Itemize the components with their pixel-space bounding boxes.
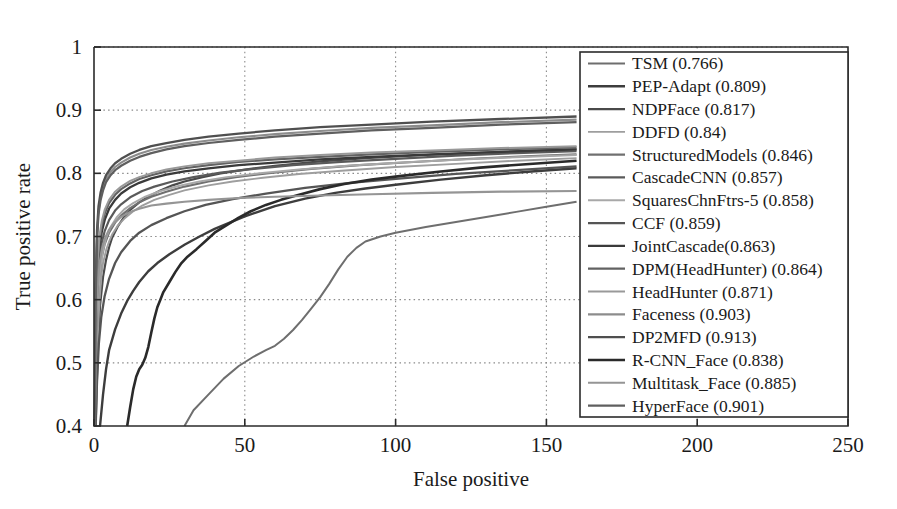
legend-label: Multitask_Face (0.885) — [632, 373, 796, 393]
roc-chart-figure: 0501001502002500.40.50.60.70.80.91 False… — [0, 0, 897, 509]
y-tick-label: 0.4 — [56, 414, 83, 438]
y-tick-label: 0.6 — [56, 288, 82, 312]
x-tick-label: 200 — [681, 433, 713, 457]
legend-label: CascadeCNN (0.857) — [632, 167, 783, 187]
legend-group: TSM (0.766)PEP-Adapt (0.809)NDPFace (0.8… — [580, 52, 848, 417]
legend-label: PEP-Adapt (0.809) — [632, 76, 766, 96]
legend-label: DDFD (0.84) — [632, 122, 726, 142]
roc-curve-ddfd — [96, 158, 577, 426]
legend-label: SquaresChnFtrs-5 (0.858) — [632, 190, 814, 210]
legend-label: TSM (0.766) — [632, 53, 724, 73]
x-tick-label: 50 — [234, 433, 255, 457]
roc-curve-multitask-face — [95, 191, 577, 426]
curves-group — [95, 116, 577, 426]
y-axis-title: True positive rate — [11, 163, 35, 310]
roc-plot-svg: 0501001502002500.40.50.60.70.80.91 False… — [0, 0, 897, 509]
roc-curve-ccf — [96, 166, 577, 426]
y-tick-label: 0.9 — [56, 98, 82, 122]
legend-label: JointCascade(0.863) — [632, 236, 776, 256]
roc-curve-pep-adapt — [100, 168, 577, 426]
x-axis-title: False positive — [413, 467, 529, 491]
x-tick-label: 150 — [531, 433, 563, 457]
y-tick-label: 0.8 — [56, 161, 82, 185]
y-tick-label: 1 — [72, 35, 83, 59]
legend-label: StructuredModels (0.846) — [632, 145, 813, 165]
legend-label: CCF (0.859) — [632, 213, 721, 233]
y-tick-label: 0.5 — [56, 351, 82, 375]
x-tick-label: 0 — [89, 433, 100, 457]
y-tick-label: 0.7 — [56, 225, 82, 249]
legend-label: R-CNN_Face (0.838) — [632, 350, 784, 370]
legend-label: Faceness (0.903) — [632, 304, 751, 324]
legend-label: DP2MFD (0.913) — [632, 327, 757, 347]
legend-label: HyperFace (0.901) — [632, 396, 764, 416]
roc-curve-tsm — [184, 202, 576, 426]
legend-label: DPM(HeadHunter) (0.864) — [632, 259, 823, 279]
legend-label: HeadHunter (0.871) — [632, 282, 773, 302]
x-tick-label: 250 — [832, 433, 864, 457]
x-tick-label: 100 — [380, 433, 412, 457]
legend-label: NDPFace (0.817) — [632, 99, 756, 119]
